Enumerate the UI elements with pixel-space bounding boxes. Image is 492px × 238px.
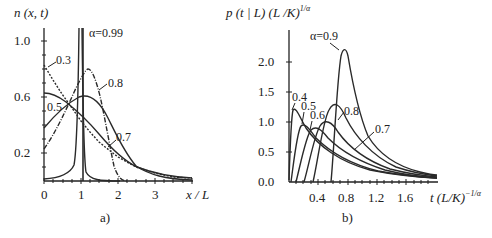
panel-a-x-axis-title: x / L xyxy=(185,187,209,202)
curve-b-alpha-0.5 xyxy=(291,125,437,182)
label-alpha-0.7: 0.7 xyxy=(116,130,131,144)
panel-a-xtick-0: 0 xyxy=(41,187,48,202)
panel-b-caption: b) xyxy=(342,210,353,225)
panel-b-x-axis-title: t (L/K)−1/α xyxy=(430,189,482,205)
panel-b-ytick-0.5: 0.5 xyxy=(258,144,274,159)
panel-b-xtick-1.2: 1.2 xyxy=(368,190,384,205)
panel-b-chart: p (t | L) (L /K)1/α 2.0 1.5 1.0 0.5 0.0 xyxy=(225,4,482,225)
figure: n (x, t) 1.0 0.6 0.2 xyxy=(0,0,492,238)
label-b-alpha-0.7: 0.7 xyxy=(375,122,390,136)
panel-b-y-axis-title: p (t | L) (L /K)1/α xyxy=(225,4,311,20)
label-b-alpha-0.8: 0.8 xyxy=(344,104,359,118)
panel-a-y-axis-title: n (x, t) xyxy=(14,5,48,20)
panel-a-ytick-1.0: 1.0 xyxy=(14,33,30,48)
label-b-alpha-0.6: 0.6 xyxy=(310,108,325,122)
panel-b-ytick-1.0: 1.0 xyxy=(258,114,274,129)
panel-a-xtick-1: 1 xyxy=(78,187,85,202)
leader-b-0.9 xyxy=(330,43,339,50)
label-alpha-0.99: α=0.99 xyxy=(89,26,123,40)
leader-0.7 xyxy=(108,140,116,147)
label-alpha-0.3: 0.3 xyxy=(56,53,71,67)
panel-b-ytick-2.0: 2.0 xyxy=(258,54,274,69)
panel-a-ytick-0.6: 0.6 xyxy=(14,89,31,104)
panel-b-ytick-0.0: 0.0 xyxy=(258,174,274,189)
panel-a-caption: a) xyxy=(100,210,110,225)
leader-0.3 xyxy=(48,62,56,67)
panel-a-ytick-0.2: 0.2 xyxy=(14,145,30,160)
panel-a-xtick-2: 2 xyxy=(115,187,122,202)
leader-0.8 xyxy=(99,84,107,90)
label-alpha-0.5: 0.5 xyxy=(47,100,62,114)
label-alpha-0.8: 0.8 xyxy=(108,76,123,90)
panel-b-xtick-0.8: 0.8 xyxy=(338,190,354,205)
panel-b-xtick-0.4: 0.4 xyxy=(309,190,326,205)
panel-b-ytick-1.5: 1.5 xyxy=(258,84,274,99)
label-b-alpha-0.9: α=0.9 xyxy=(310,29,338,43)
panel-a-chart: n (x, t) 1.0 0.6 0.2 xyxy=(14,5,209,225)
panel-a-xtick-3: 3 xyxy=(152,187,159,202)
panel-b-xtick-1.6: 1.6 xyxy=(397,190,414,205)
